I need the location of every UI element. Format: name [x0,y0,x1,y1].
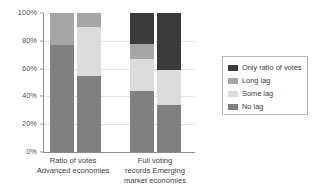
bar-full-advanced[interactable] [130,13,154,152]
bar-full-emerging[interactable] [157,13,181,152]
legend-item-no-lag[interactable]: No lag [228,100,303,113]
segment-long-lag [130,44,154,59]
segment-no-lag [157,105,181,152]
segment-some-lag [157,70,181,105]
legend-label: Long lag [242,77,270,85]
legend-swatch-icon [228,65,238,71]
y-tick-label-60: 60% [22,65,37,73]
y-tick-label-80: 80% [22,37,37,45]
bars-container [44,13,195,152]
y-tick-label-40: 40% [22,92,37,100]
y-tick-label-0: 0% [26,148,37,156]
segment-some-lag [77,27,101,76]
segment-long-lag [50,13,74,45]
legend-label: Some lag [242,90,273,98]
legend-swatch-icon [228,91,238,97]
bar-ratio-emerging[interactable] [77,13,101,152]
legend-item-only-ratio-of-votes[interactable]: Only ratio of votes [228,61,303,74]
stacked-bar-chart: 100% 80% 60% 40% 20% 0% [0,0,313,192]
chart-legend: Only ratio of votes Long lag Some lag No… [222,56,308,115]
segment-only-ratio-of-votes [130,13,154,44]
plot-area: 100% 80% 60% 40% 20% 0% [0,0,200,192]
x-label-group-left-line1: Ratio of votes [28,156,118,166]
legend-swatch-icon [228,104,238,110]
segment-some-lag [130,59,154,91]
x-label-group-right-line2: records Emerging [106,166,204,176]
x-label-group-right-line3: market economies [106,176,204,186]
legend-item-long-lag[interactable]: Long lag [228,74,303,87]
y-tick-label-20: 20% [22,120,37,128]
segment-no-lag [130,91,154,152]
x-axis-line [43,152,195,153]
x-label-group-right-line1: Full voting [110,156,200,166]
legend-swatch-icon [228,78,238,84]
segment-no-lag [50,45,74,152]
y-tick-label-100: 100% [18,9,37,17]
segment-only-ratio-of-votes [157,13,181,70]
bar-ratio-advanced[interactable] [50,13,74,152]
legend-label: Only ratio of votes [242,64,302,72]
segment-no-lag [77,76,101,152]
segment-long-lag [77,13,101,27]
legend-label: No lag [242,103,263,111]
legend-item-some-lag[interactable]: Some lag [228,87,303,100]
